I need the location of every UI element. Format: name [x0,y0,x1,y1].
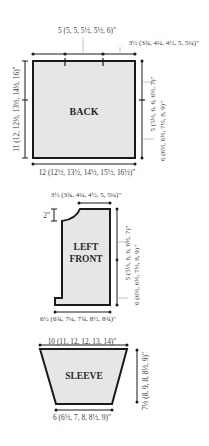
back-width: 12 (12½, 13½, 14½, 15½, 16½)" [39,168,136,177]
back-top-dimension [31,37,136,56]
sleeve-length: 7½ (8, 9, 8, 8½, 9)" [141,352,150,410]
back-piece: BACK 5 (5, 5, 5½, 5½, 6)" 3½ (3¾, 4¼, 4½… [12,26,199,177]
front-side-length: 6 (6½, 6½, 7½, 8, 9)" [133,245,141,305]
front-bottom-dimension [54,311,112,314]
sleeve-cuff-width: 6 (6½, 7, 8, 8½, 9)" [53,413,111,422]
sleeve-length-dimension [136,349,139,404]
back-label: BACK [70,106,99,117]
sleeve-label: SLEEVE [65,371,103,381]
front-label-line1: LEFT [74,242,99,252]
front-label-line2: FRONT [69,254,103,264]
front-width: 6½ (6¾, 7¼, 7¾, 8½, 8¾)" [40,315,116,323]
front-armhole-depth: 5 (5½, 6, 6, 6½, 7)" [124,225,132,280]
back-neck-width: 3½ (3¾, 4¼, 4½, 5, 5¼)" [128,39,199,47]
back-total-length: 11 (12, 12½, 13½, 14½, 16)" [12,66,21,151]
back-armhole-depth: 5 (5½, 6, 6, 6½, 7)" [149,76,157,131]
front-top-dimension [78,202,112,205]
back-shoulder-width: 5 (5, 5, 5½, 5½, 6)" [58,26,116,35]
knitting-schematic: BACK 5 (5, 5, 5½, 5½, 6)" 3½ (3¾, 4¼, 4½… [0,0,209,446]
back-left-dimension [22,61,28,158]
sleeve-cuff-dimension [55,409,114,412]
sleeve-piece: 10 (11, 12, 12, 13, 14)" SLEEVE 7½ (8, 9… [39,337,151,422]
front-shoulder-width: 3½ (3¾, 4¼, 4½, 5, 5¼)" [51,191,122,199]
left-front-piece: 3½ (3¾, 4¼, 4½, 5, 5¼)" 2" LEFT FRONT 5 … [40,191,141,323]
back-bottom-dimension [32,163,137,166]
back-side-length: 6 (6½, 6½, 7½, 8, 9)" [159,101,167,161]
front-neck-drop-dimension [51,209,57,221]
front-neck-drop: 2" [43,211,50,220]
